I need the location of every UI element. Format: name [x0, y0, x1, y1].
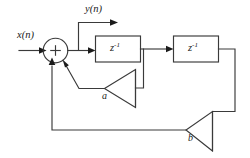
output-signal-label: y(n) — [85, 4, 102, 15]
signal-flow-diagram: x(n) y(n) z-1 z-1 a b — [0, 0, 250, 158]
edge-delay1-to-delay2 — [141, 46, 174, 53]
edge-delay1-to-gain-a — [136, 49, 144, 88]
diagram-canvas — [0, 0, 250, 158]
gain-a-label: a — [102, 91, 107, 101]
edge-delay2-to-gain-b — [213, 49, 236, 112]
input-signal-label: x(n) — [17, 30, 34, 41]
gain-b-label: b — [188, 133, 193, 143]
delay-block-2-exponent: -1 — [192, 41, 198, 49]
gain-triangle-a — [105, 70, 136, 108]
delay-block-1-exponent: -1 — [114, 41, 120, 49]
edge-gain-a-to-adder — [63, 60, 105, 89]
edge-adder-to-delay1 — [68, 47, 96, 54]
edge-input-to-adder — [19, 47, 47, 54]
edge-gain-b-to-adder — [49, 58, 186, 131]
summing-junction — [43, 38, 68, 63]
delay-block-1-label: z-1 — [110, 43, 120, 54]
delay-block-2-label: z-1 — [188, 43, 198, 54]
